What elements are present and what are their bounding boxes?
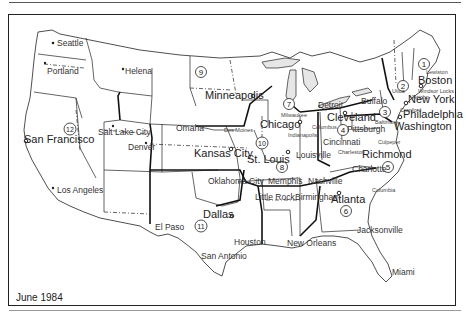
svg-text:9: 9 bbox=[199, 68, 204, 77]
city-utica: Utica bbox=[392, 88, 405, 94]
city-san-antonio: San Antonio bbox=[201, 251, 247, 261]
city-los-angeles: Los Angeles bbox=[57, 185, 103, 195]
city-helena: Helena bbox=[125, 66, 152, 76]
svg-text:11: 11 bbox=[197, 223, 204, 230]
city-birmingham: Birmingham bbox=[295, 192, 340, 202]
city-milwaukee: Milwaukee bbox=[281, 112, 307, 118]
svg-text:7: 7 bbox=[287, 100, 292, 109]
city-culpeper: Culpeper bbox=[378, 139, 400, 145]
city-charleston: Charleston bbox=[338, 149, 365, 155]
city-dallas: Dallas bbox=[203, 208, 234, 220]
city-louisville: Louisville bbox=[296, 150, 331, 160]
map-date-caption: June 1984 bbox=[16, 292, 63, 303]
city-denver: Denver bbox=[128, 142, 156, 152]
city-baltimore: Baltimore bbox=[375, 119, 398, 125]
svg-text:10: 10 bbox=[258, 140, 266, 147]
city-kansas-city: Kansas City bbox=[194, 147, 253, 159]
city-houston: Houston bbox=[234, 237, 266, 247]
city-detroit: Detroit bbox=[318, 100, 344, 110]
city-cleveland: Cleveland bbox=[327, 111, 376, 123]
region-6-marker: 6 bbox=[341, 206, 352, 217]
city-little-rock: Little Rock bbox=[255, 192, 295, 202]
city-salt-lake-city: Salt Lake City bbox=[98, 127, 151, 137]
svg-text:6: 6 bbox=[344, 207, 349, 216]
city-el-paso: El Paso bbox=[155, 222, 185, 232]
city-jacksonville: Jacksonville bbox=[357, 225, 403, 235]
city-indianapolis: Indianapolis bbox=[288, 132, 318, 138]
city-cranford: Cranford bbox=[400, 107, 421, 113]
svg-text:3: 3 bbox=[383, 108, 388, 117]
city-portland: Portland bbox=[47, 66, 79, 76]
region-3-marker: 3 bbox=[380, 107, 391, 118]
region-10-marker: 10 bbox=[256, 137, 268, 149]
city-seattle: Seattle bbox=[57, 38, 84, 48]
svg-text:5: 5 bbox=[386, 163, 391, 172]
city-omaha: Omaha bbox=[176, 123, 204, 133]
region-9-marker: 9 bbox=[196, 67, 207, 78]
city-st-louis: St. Louis bbox=[247, 153, 290, 165]
region-7-marker: 7 bbox=[284, 99, 295, 110]
city-boston: Boston bbox=[418, 74, 452, 86]
city-columbia: Columbia bbox=[372, 187, 396, 193]
city-oklahoma-city: Oklahoma City bbox=[208, 176, 264, 186]
city-des-moines: Des Moines bbox=[224, 127, 253, 133]
city-cincinnati: Cincinnati bbox=[323, 137, 360, 147]
svg-text:4: 4 bbox=[341, 126, 346, 135]
city-buffalo: Buffalo bbox=[361, 96, 388, 106]
region-1-marker: 1 bbox=[419, 59, 430, 70]
svg-text:12: 12 bbox=[66, 126, 74, 133]
city-minneapolis: Minneapolis bbox=[205, 89, 264, 101]
city-columbus: Columbus bbox=[312, 124, 337, 130]
city-nashville: Nashville bbox=[308, 176, 343, 186]
city-charlotte: Charlotte bbox=[352, 164, 387, 174]
city-washington: Washington bbox=[394, 120, 452, 132]
region-11-marker: 11 bbox=[195, 220, 207, 232]
city-chicago: Chicago bbox=[260, 118, 300, 130]
city-miami: Miami bbox=[392, 267, 415, 277]
city-pittsburgh: Pittsburgh bbox=[347, 124, 386, 134]
svg-text:1: 1 bbox=[422, 60, 427, 69]
us-region-map: 1 2 3 4 5 6 7 8 9 10 11 12 Seattle San F… bbox=[0, 0, 466, 318]
city-memphis: Memphis bbox=[268, 176, 302, 186]
city-san-francisco: San Francisco bbox=[24, 133, 94, 145]
city-new-orleans: New Orleans bbox=[287, 238, 336, 248]
city-richmond: Richmond bbox=[362, 148, 412, 160]
city-jericho: Jericho bbox=[411, 94, 429, 100]
city-lewiston: Lewiston bbox=[426, 69, 448, 75]
